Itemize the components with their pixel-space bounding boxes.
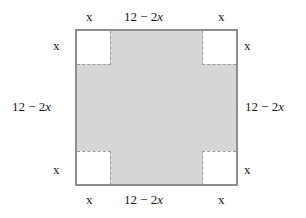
label-right-bottom-x: x bbox=[244, 163, 251, 176]
label-left-middle: 12 − 2x bbox=[12, 100, 51, 113]
label-right-top-x: x bbox=[244, 39, 251, 52]
label-top-middle: 12 − 2x bbox=[124, 10, 163, 23]
fold-line-bottom-right-vertical bbox=[202, 151, 203, 185]
shaded-region-vertical bbox=[110, 31, 203, 184]
fold-line-top-right-horizontal bbox=[202, 64, 236, 65]
fold-line-bottom-left-horizontal bbox=[77, 151, 111, 152]
label-bottom-left-x: x bbox=[86, 193, 93, 206]
geometry-figure: x 12 − 2x x x 12 − 2x x x 12 − 2x x x 12… bbox=[0, 0, 306, 218]
label-top-right-x: x bbox=[218, 10, 225, 23]
outer-square bbox=[75, 29, 238, 186]
label-top-left-x: x bbox=[86, 10, 93, 23]
label-right-middle: 12 − 2x bbox=[245, 100, 284, 113]
fold-line-top-left-horizontal bbox=[77, 64, 111, 65]
fold-line-top-right-vertical bbox=[202, 31, 203, 65]
label-left-top-x: x bbox=[53, 39, 60, 52]
label-left-bottom-x: x bbox=[53, 163, 60, 176]
fold-line-bottom-left-vertical bbox=[110, 151, 111, 185]
fold-line-top-left-vertical bbox=[110, 31, 111, 65]
label-bottom-middle: 12 − 2x bbox=[124, 193, 163, 206]
fold-line-bottom-right-horizontal bbox=[202, 151, 236, 152]
label-bottom-right-x: x bbox=[218, 193, 225, 206]
